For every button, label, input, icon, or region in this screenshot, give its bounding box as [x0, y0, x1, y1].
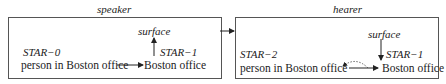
hearer-dashed-arrow — [343, 61, 368, 68]
diagram-arrows — [0, 0, 446, 84]
